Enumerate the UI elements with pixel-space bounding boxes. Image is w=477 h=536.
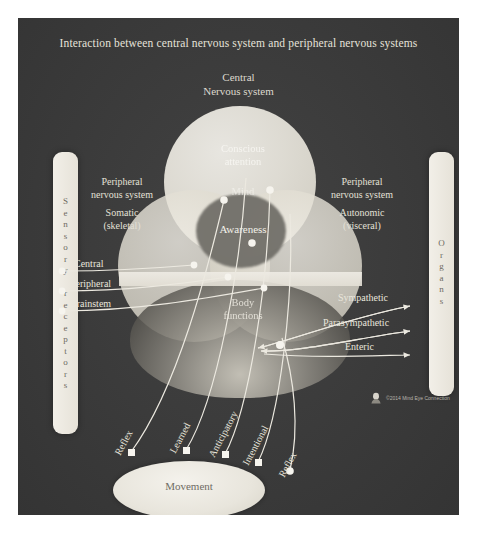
diagram-panel: Interaction between central nervous syst… — [18, 18, 459, 515]
node-mind-origin — [220, 196, 228, 204]
node-peripheral-end — [225, 274, 232, 281]
node-sensory-peripheral — [59, 288, 66, 295]
label-movement: Movement — [113, 480, 265, 492]
node-movement-intentional — [255, 459, 262, 466]
label-sympathetic: Sympathetic — [338, 292, 388, 303]
node-sensory-central — [59, 268, 66, 275]
node-attention-origin — [266, 186, 274, 194]
node-awareness-origin — [248, 239, 256, 247]
node-body-hub — [276, 341, 284, 349]
label-enteric: Enteric — [345, 341, 374, 352]
label-central: Central — [74, 258, 103, 269]
label-parasympathetic: Parasympathetic — [323, 317, 389, 328]
node-brainstem-end — [261, 285, 268, 292]
stem-reflex-1 — [131, 200, 224, 452]
stem-learned — [186, 178, 246, 450]
diagram-canvas: Interaction between central nervous syst… — [0, 0, 477, 536]
logo-icon — [370, 392, 382, 404]
credit-text: ©2014 Mind Eye Connection — [386, 395, 450, 401]
node-movement-anticipatory — [222, 451, 229, 458]
credit: ©2014 Mind Eye Connection — [370, 392, 450, 404]
label-brainstem: Brainstem — [70, 298, 111, 309]
node-movement-reflex-1 — [128, 449, 135, 456]
label-peripheral: Peripheral — [70, 278, 111, 289]
node-movement-learned — [183, 447, 190, 454]
node-sensory-brainstem — [59, 308, 66, 315]
node-central-end — [191, 262, 198, 269]
